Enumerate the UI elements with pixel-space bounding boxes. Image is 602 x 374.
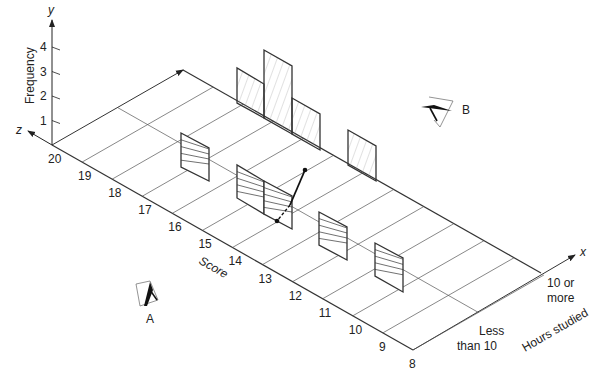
bar-front [375, 243, 403, 292]
bar-front [237, 165, 264, 214]
bar-front [319, 212, 347, 260]
score-tick-label: 17 [138, 203, 152, 217]
hours-studied-label: Hours studied [520, 305, 591, 354]
bar-back-15 [264, 50, 292, 134]
score-tick-label: 11 [319, 306, 332, 320]
x-symbol: x [579, 245, 587, 259]
y-tick-label: 1 [40, 114, 47, 128]
y-tick-label: 4 [40, 40, 47, 54]
score-tick-label: 19 [78, 169, 92, 183]
viewer-a-label: A [146, 312, 154, 326]
score-tick-label: 9 [379, 340, 386, 354]
score-tick-label: 14 [228, 254, 242, 268]
score-tick-label: 13 [259, 272, 273, 286]
score-tick-label: 20 [48, 152, 62, 166]
score-tick-label: 12 [289, 289, 303, 303]
score-tick-label: 15 [198, 237, 212, 251]
viewer-b-eye-icon [421, 97, 453, 127]
score-tick-label: 18 [108, 186, 122, 200]
bars-10-or-more [237, 50, 376, 181]
score-tick-label: 16 [168, 220, 182, 234]
z-symbol: z [15, 123, 22, 137]
ten-or-more-line2: more [547, 291, 575, 305]
less-than-10-line1: Less [479, 324, 504, 338]
bar-back-16 [237, 68, 264, 118]
histogram-3d: y z x Frequency 1234 2019181716151413121… [0, 0, 602, 374]
y-symbol: y [47, 3, 55, 17]
y-tick-label: 2 [40, 89, 47, 103]
bar-back-12 [348, 130, 376, 181]
diagram-stage: y z x Frequency 1234 2019181716151413121… [0, 0, 602, 374]
y-axis [52, 20, 60, 145]
score-tick-label: 10 [349, 323, 363, 337]
bar-front [181, 133, 209, 181]
viewer-b-label: B [462, 103, 470, 117]
floor-mid-line [118, 108, 479, 313]
score-label: Score [197, 253, 231, 281]
y-tick-label: 3 [40, 65, 47, 79]
score-tick-label: 8 [409, 357, 416, 371]
z-axis-arrow [28, 131, 52, 145]
viewer-a-eye-icon [136, 281, 158, 306]
less-than-10-line2: than 10 [457, 339, 497, 353]
ten-or-more-line1: 10 or [547, 276, 574, 290]
frequency-label: Frequency [23, 47, 37, 104]
